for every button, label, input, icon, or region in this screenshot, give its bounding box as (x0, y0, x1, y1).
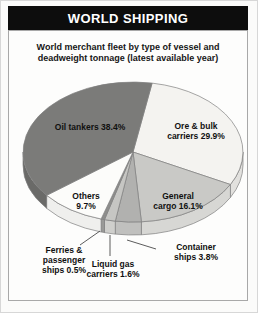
slice-label-container-ships: Container ships 3.8% (154, 242, 238, 262)
world-shipping-infographic: WORLD SHIPPING World merchant fleet by t… (0, 0, 258, 313)
slice-label-oil-tankers: Oil tankers 38.4% (30, 122, 150, 132)
pie-rim-ferries-passenger-ships (101, 219, 104, 233)
leader-line-ferries-passenger-ships (80, 231, 100, 245)
pie-rim-liquid-gas-carriers (105, 220, 116, 235)
slice-label-others: Others 9.7% (52, 191, 120, 211)
leader-line-container-ships (127, 240, 156, 249)
pie-rim-container-ships (115, 221, 141, 235)
slice-label-liquid-gas-carriers: Liquid gas carriers 1.6% (72, 259, 154, 279)
slice-label-ore-bulk-carriers: Ore & bulk carriers 29.9% (148, 121, 244, 141)
slice-label-general-cargo: General cargo 16.1% (136, 191, 220, 211)
chart-subtitle: World merchant fleet by type of vessel a… (8, 42, 248, 64)
